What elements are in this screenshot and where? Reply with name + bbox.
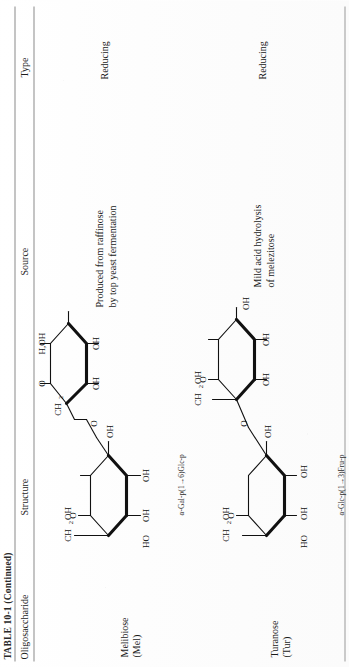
table-row: Melibiose (Mel) [118, 617, 142, 657]
label-oh-ring2-b: OH [260, 332, 270, 345]
structure-diagram-turanose: CH 2 OH O HO OH OH OH O CH 2 OH O OH OH … [196, 299, 338, 549]
label-oh-ring1-b: OH [298, 464, 308, 477]
label-ch2oh-ring1: CH [62, 528, 72, 541]
column-header-structure: Structure [18, 478, 29, 515]
type-cell-melibiose: Reducing [98, 41, 109, 79]
column-header-source: Source [18, 247, 29, 275]
label-glycosidic-o: O [238, 419, 248, 426]
label-ho-ring1: HO [298, 534, 308, 547]
source-line-1: Mild acid hydrolysis [250, 204, 263, 287]
label-ch2oh-ring2-sub: 2 [196, 384, 203, 387]
label-oh-ring1-c: OH [262, 424, 272, 437]
label-oh-ring1-a: OH [298, 506, 308, 519]
label-oh-ring2-b: OH [90, 336, 100, 349]
label-ring-o-1: O [225, 511, 235, 518]
table-title: TABLE 10-1 (Continued) [2, 552, 12, 659]
label-oh-ring1-b: OH [140, 468, 150, 481]
label-oh-ring1-a: OH [140, 508, 150, 521]
label-ring-o-1: O [67, 511, 77, 518]
label-ho-ring1: HO [140, 534, 150, 547]
label-oh-ring2-c: OH [240, 296, 250, 309]
label-oh-ring2-a: OH [90, 376, 100, 389]
source-line-2: by top yeast fermentation [105, 205, 118, 307]
label-oh-ring1-c: OH [104, 424, 114, 437]
label-ch2-linker-sub: 2 [56, 395, 63, 398]
label-ring-o-2: O [36, 379, 46, 386]
label-ch2oh-ring1-sub: 2 [224, 520, 231, 523]
source-cell-melibiose: Produced from raffinose by top yeast fer… [92, 205, 118, 307]
nomenclature-melibiose: α-Gal-p(1→6)Glc-p [176, 454, 185, 515]
label-glycosidic-o: O [88, 419, 98, 426]
source-line-1: Produced from raffinose [92, 205, 105, 307]
oligosaccharide-name: Melibiose [118, 617, 130, 657]
oligosaccharide-name: Turanose [268, 620, 280, 657]
structure-diagram-melibiose: CH 2 OH O HO OH OH OH O CH 2 O H,OH OH O… [44, 309, 174, 549]
column-header-type: Type [18, 57, 29, 77]
label-ch2-linker: CH [52, 402, 62, 415]
source-cell-turanose: Mild acid hydrolysis of melezitose [250, 204, 276, 287]
table-rule-header [33, 6, 34, 661]
label-ch2oh-ring2: CH [192, 392, 202, 405]
column-header-oligosaccharide: Oligosaccharide [18, 594, 29, 659]
table-row: Turanose (Tur) [268, 620, 292, 657]
label-h-oh-ring2: H,OH [36, 332, 46, 354]
label-ch2oh-ring1: CH [220, 528, 230, 541]
label-oh-ring2-a: OH [260, 372, 270, 385]
label-ch2oh-ring1-sub: 2 [66, 520, 73, 523]
scanned-table-page: TABLE 10-1 (Continued) Oligosaccharide S… [0, 0, 349, 667]
oligosaccharide-abbrev: (Tur) [280, 620, 292, 657]
type-cell-turanose: Reducing [256, 41, 267, 79]
oligosaccharide-abbrev: (Mel) [130, 617, 142, 657]
table-rule-bottom [344, 6, 345, 661]
label-ring-o-2: O [197, 375, 207, 382]
nomenclature-turanose: α-Glc-p(1→3)Fru-p [336, 454, 345, 515]
table-rule-top [14, 6, 15, 661]
source-line-2: of melezitose [263, 204, 276, 287]
